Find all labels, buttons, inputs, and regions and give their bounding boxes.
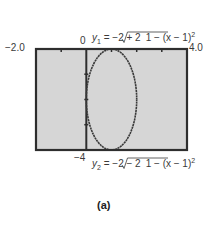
equation-y2: y2 = −2 − 21 − (x − 1)2 (92, 157, 195, 171)
plot-area (36, 49, 187, 150)
ymin-label: −4 (74, 152, 85, 163)
eq2-radicand: 1 − (x − 1) (146, 158, 192, 169)
eq2-expression: = −2 − 2 (101, 158, 141, 169)
xmin-label: −2.0 (5, 42, 25, 53)
equation-y1: y1 = −2 + 21 − (x − 1)2 (92, 31, 195, 45)
ymax-label: 0 (80, 35, 86, 46)
eq1-exponent: 2 (191, 31, 195, 38)
eq1-radicand: 1 − (x − 1) (146, 32, 192, 43)
eq1-expression: = −2 + 2 (101, 32, 141, 43)
figure-caption: (a) (97, 199, 110, 211)
eq2-exponent: 2 (191, 157, 195, 164)
